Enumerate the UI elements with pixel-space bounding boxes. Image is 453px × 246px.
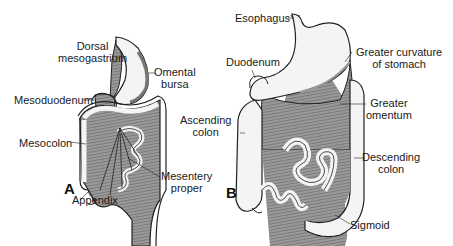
panel-letter-b: B (226, 184, 237, 201)
label-duodenum: Duodenum (226, 56, 280, 68)
label-mesentery-proper: Mesentery proper (161, 170, 212, 194)
label-ascending-colon: Ascending colon (180, 114, 231, 138)
label-esophagus: Esophagus (235, 12, 290, 24)
label-appendix: Appendix (72, 194, 118, 206)
label-omental-bursa: Omental bursa (154, 66, 196, 90)
label-greater-omentum: Greater omentum (366, 97, 412, 121)
label-sigmoid: Sigmoid (350, 219, 390, 231)
label-descending-colon: Descending colon (362, 151, 420, 175)
panel-letter-a: A (64, 180, 75, 197)
panel-a-drawing (70, 35, 166, 246)
figure: Dorsal mesogastrium Omental bursa Mesodu… (0, 0, 453, 246)
label-dorsal-mesogastrium: Dorsal mesogastrium (58, 40, 127, 64)
panel-b-drawing (236, 14, 366, 246)
label-greater-curvature: Greater curvature of stomach (356, 46, 442, 70)
label-mesocolon: Mesocolon (19, 137, 72, 149)
label-mesoduodenum: Mesoduodenum (14, 94, 93, 106)
